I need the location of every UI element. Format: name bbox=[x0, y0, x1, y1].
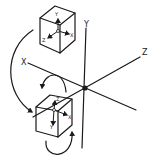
origin-point bbox=[82, 85, 87, 90]
bottom-cube-z-label: Z bbox=[56, 96, 60, 102]
top-cube: Y X Z bbox=[40, 6, 75, 53]
bottom-cube: Z X Y bbox=[36, 95, 72, 137]
world-x-label: X bbox=[21, 58, 27, 67]
top-cube-y-label: Y bbox=[54, 11, 59, 17]
rotation-diagram: Y X Z Y X Z Z X Y bbox=[0, 0, 157, 162]
top-cube-x-label: X bbox=[70, 32, 74, 38]
top-cube-z-label: Z bbox=[42, 37, 46, 43]
world-z-label: Z bbox=[142, 48, 148, 57]
bottom-cube-x-label: X bbox=[68, 114, 72, 120]
transition-arrow-icon bbox=[11, 30, 33, 112]
diagram-canvas: Y X Z Y X Z Z X Y bbox=[0, 0, 157, 162]
world-y-label: Y bbox=[83, 20, 89, 29]
world-x-axis bbox=[28, 63, 136, 110]
